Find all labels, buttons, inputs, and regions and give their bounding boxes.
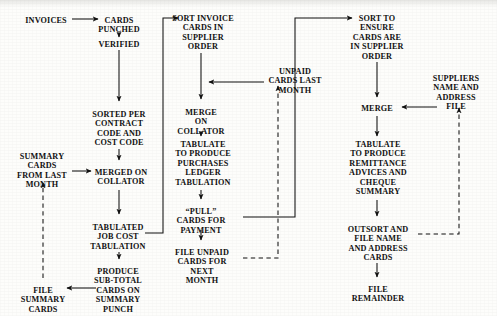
node-tabulated-job: TABULATED JOB COST TABULATION <box>90 223 145 251</box>
connector-fileunpaid-to-unpaidlast <box>243 86 278 258</box>
node-sorted-per: SORTED PER CONTRACT CODE AND COST CODE <box>92 110 145 148</box>
node-suppliers-file: SUPPLIERS NAME AND ADDRESS FILE <box>433 74 479 112</box>
flowchart-connectors <box>0 0 497 316</box>
node-sort-ensure: SORT TO ENSURE CARDS ARE IN SUPPLIER ORD… <box>350 14 403 61</box>
node-file-unpaid: FILE UNPAID CARDS FOR NEXT MONTH <box>175 248 229 286</box>
node-verified: VERIFIED <box>98 40 139 49</box>
node-tabulate-remit: TABULATE TO PRODUCE REMITTANCE ADVICES A… <box>349 140 407 196</box>
node-merge-collator: MERGE ON COLLATOR <box>177 108 224 136</box>
node-pull-cards: “PULL” CARDS FOR PAYMENT <box>177 207 226 235</box>
node-cards-punched: CARDS PUNCHED <box>98 16 140 35</box>
flowchart-canvas: INVOICESCARDS PUNCHEDVERIFIEDSORTED PER … <box>0 0 497 316</box>
node-unpaid-last: UNPAID CARDS LAST MONTH <box>268 67 321 95</box>
node-summary-last: SUMMARY CARDS FROM LAST MONTH <box>17 152 67 190</box>
node-tabulate-ledger: TABULATE TO PRODUCE PURCHASES LEDGER TAB… <box>175 140 231 187</box>
paper-grain-overlay <box>0 0 497 316</box>
node-invoices: INVOICES <box>25 16 67 25</box>
node-sort-invoice: SORT INVOICE CARDS IN SUPPLIER ORDER <box>172 14 233 52</box>
node-produce-subtotal: PRODUCE SUB-TOTAL CARDS ON SUMMARY PUNCH <box>94 267 142 314</box>
node-merged-collator: MERGED ON COLLATOR <box>95 168 148 187</box>
scan-edge-artifact <box>0 0 497 7</box>
connector-outsort-to-suppliers <box>418 108 459 234</box>
node-outsort-file: OUTSORT AND FILE NAME AND ADDRESS CARDS <box>348 225 409 263</box>
node-file-summary: FILE SUMMARY CARDS <box>21 286 65 314</box>
node-file-remainder: FILE REMAINDER <box>352 285 405 304</box>
connector-pull-to-sortensure <box>243 18 352 217</box>
node-merge-right: MERGE <box>361 104 393 113</box>
